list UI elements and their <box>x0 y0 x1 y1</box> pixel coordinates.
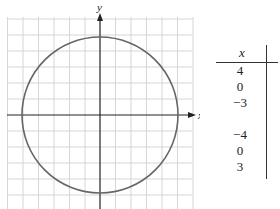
y-axis-arrow-icon <box>97 13 103 21</box>
table-cell: 0 <box>216 79 264 95</box>
x-axis-label: x <box>197 109 200 121</box>
table-cell: −4 <box>216 127 264 143</box>
circle-graph: y x <box>0 0 200 209</box>
column-divider <box>266 45 267 179</box>
table-header-x: x <box>216 45 268 61</box>
table-cell: −3 <box>216 95 264 111</box>
table-cell: 0 <box>216 143 264 159</box>
table-cell: 3 <box>216 159 264 175</box>
axes <box>7 20 190 209</box>
table-cell <box>216 111 264 127</box>
value-table: x 4 0 −3 −4 0 3 <box>216 45 280 195</box>
x-axis-arrow-icon <box>188 112 196 118</box>
table-cell: 4 <box>216 63 264 79</box>
x-column: 4 0 −3 −4 0 3 <box>216 63 264 175</box>
y-axis-label: y <box>96 1 102 13</box>
